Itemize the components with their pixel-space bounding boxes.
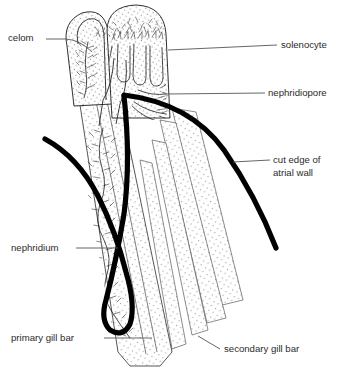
leader-solenocyte <box>168 45 277 50</box>
label-atrial-wall: atrial wall <box>273 167 313 178</box>
leader-nephridiopore <box>166 93 265 94</box>
label-nephridium: nephridium <box>11 242 58 253</box>
leader-cut-edge <box>233 160 270 162</box>
label-secondary-gill-bar: secondary gill bar <box>224 343 300 354</box>
diagram-canvas: celom solenocyte nephridiopore cut edge … <box>0 0 340 369</box>
label-primary-gill-bar: primary gill bar <box>11 332 75 343</box>
label-solenocyte: solenocyte <box>281 39 327 50</box>
diagram-figure: celom solenocyte nephridiopore cut edge … <box>0 0 340 369</box>
label-celom: celom <box>8 32 34 43</box>
leader-secondary-gill-bar <box>198 336 220 349</box>
label-cut-edge-of: cut edge of <box>273 154 321 165</box>
label-nephridiopore: nephridiopore <box>268 87 327 98</box>
